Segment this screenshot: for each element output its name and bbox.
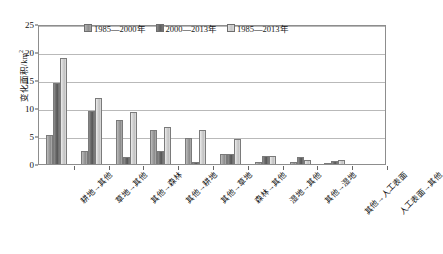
y-tick-label-20: 20 bbox=[14, 48, 34, 58]
bar-group bbox=[150, 127, 171, 164]
bar bbox=[220, 154, 227, 164]
bar bbox=[46, 135, 53, 164]
bar bbox=[331, 161, 338, 164]
bar bbox=[130, 112, 137, 164]
bar bbox=[150, 130, 157, 164]
bar bbox=[199, 130, 206, 164]
legend-swatch-icon-1 bbox=[156, 24, 164, 32]
legend-label-0: 1985—2000年 bbox=[94, 22, 146, 34]
bars-layer bbox=[39, 26, 385, 164]
bar-group bbox=[81, 98, 102, 164]
bar bbox=[227, 154, 234, 164]
bar bbox=[81, 151, 88, 164]
legend-swatch-icon-2 bbox=[227, 24, 235, 32]
bar bbox=[116, 120, 123, 164]
bar bbox=[269, 156, 276, 164]
bar bbox=[123, 157, 130, 164]
bar bbox=[255, 162, 262, 164]
x-tick-label: 森林→其他 bbox=[252, 169, 288, 205]
x-tick-label: 草地→其他 bbox=[113, 169, 149, 205]
x-tick-label: 其他→草地 bbox=[217, 169, 253, 205]
bar-group bbox=[220, 139, 241, 164]
y-tick-label-5: 5 bbox=[14, 132, 34, 142]
x-tick-label: 湿地→其他 bbox=[287, 169, 323, 205]
bar-group bbox=[290, 157, 311, 164]
bar bbox=[297, 157, 304, 164]
bar-group bbox=[46, 58, 67, 164]
bar bbox=[95, 98, 102, 164]
legend: 1985—2000年 2000—2013年 1985—2013年 bbox=[84, 22, 289, 34]
bar bbox=[262, 156, 269, 164]
bar-group bbox=[255, 156, 276, 164]
x-tick-label: 其他→森林 bbox=[148, 169, 184, 205]
x-tick-label: 耕地→其他 bbox=[78, 169, 114, 205]
y-tick-label-15: 15 bbox=[14, 76, 34, 86]
legend-swatch-icon-0 bbox=[84, 24, 92, 32]
bar bbox=[60, 58, 67, 164]
bar bbox=[234, 139, 241, 164]
x-tick-label: 其他→湿地 bbox=[322, 169, 358, 205]
legend-item-0: 1985—2000年 bbox=[84, 22, 146, 34]
x-axis-labels: 耕地→其他草地→其他其他→森林其他→耕地其他→草地森林→其他湿地→其他其他→湿地… bbox=[0, 167, 399, 254]
bar bbox=[290, 162, 297, 164]
bar bbox=[88, 111, 95, 164]
bar bbox=[164, 127, 171, 164]
bar bbox=[324, 163, 331, 164]
y-tick-label-25: 25 bbox=[14, 20, 34, 30]
bar bbox=[185, 138, 192, 164]
bar-group bbox=[116, 112, 137, 164]
y-tick-label-10: 10 bbox=[14, 104, 34, 114]
bar-group bbox=[185, 130, 206, 164]
bar bbox=[157, 151, 164, 164]
legend-item-2: 1985—2013年 bbox=[227, 22, 289, 34]
bar bbox=[53, 83, 60, 164]
plot-area bbox=[38, 25, 386, 165]
legend-label-2: 1985—2013年 bbox=[237, 22, 289, 34]
bar bbox=[304, 160, 311, 164]
bar-group bbox=[324, 160, 345, 164]
legend-item-1: 2000—2013年 bbox=[156, 22, 218, 34]
legend-label-1: 2000—2013年 bbox=[166, 22, 218, 34]
x-tick-label: 其他→耕地 bbox=[183, 169, 219, 205]
bar bbox=[192, 162, 199, 164]
bar bbox=[338, 160, 345, 164]
